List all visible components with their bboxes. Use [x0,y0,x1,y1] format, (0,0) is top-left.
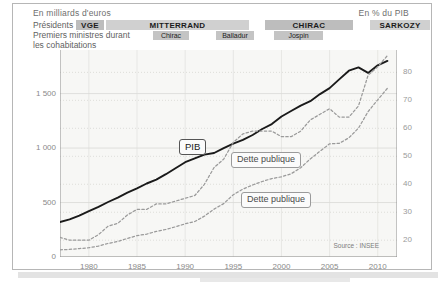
chart-card: En milliards d'euros En % du PIB Préside… [12,3,432,270]
pm-band-balladur: Balladur [216,31,254,40]
callout-pib: PIB [179,139,206,155]
right-tick-50: 50 [403,151,412,160]
president-band-sarkozy: SARKOZY [370,20,430,30]
right-tick-40: 40 [403,179,412,188]
plot-canvas [60,50,397,257]
right-tick-80: 80 [403,67,412,76]
x-tick-2005: 2005 [310,262,350,271]
chart-figure: En milliards d'euros En % du PIB Préside… [0,0,446,287]
left-tick-500: 500 [18,198,56,207]
card-shadow-secondary [200,277,350,282]
pm-band-jospin: Jospin [274,31,323,40]
president-band-mitterrand: MITTERRAND [106,20,249,30]
right-axis-unit-label: En % du PIB [359,8,409,18]
plot-area [60,50,397,257]
x-tick-2000: 2000 [261,262,301,271]
x-tick-1995: 1995 [213,262,253,271]
right-tick-60: 60 [403,123,412,132]
x-tick-1980: 1980 [69,262,109,271]
left-axis-unit-label: En milliards d'euros [33,8,111,18]
president-band-vge: VGE [76,20,104,30]
callout-dette_mds: Dette publique [241,192,311,208]
president-band-chirac: CHIRAC [265,20,353,30]
x-tick-1985: 1985 [117,262,157,271]
right-tick-20: 20 [403,235,412,244]
left-tick-1500: 1 500 [18,89,56,98]
left-tick-1000: 1 000 [18,143,56,152]
presidents-row-label: Présidents [33,20,73,30]
source-note: Source : INSEE [333,242,379,249]
cohabitations-row-label: les cohabitations [33,40,96,50]
prime-ministers-row-label: Premiers ministres durant [33,30,130,40]
x-tick-2010: 2010 [358,262,398,271]
pm-band-chirac: Chirac [153,31,189,40]
right-tick-30: 30 [403,207,412,216]
x-tick-1990: 1990 [165,262,205,271]
right-tick-70: 70 [403,95,412,104]
callout-dette_pct: Dette publique [231,152,301,168]
left-tick-0: 0 [18,252,56,261]
